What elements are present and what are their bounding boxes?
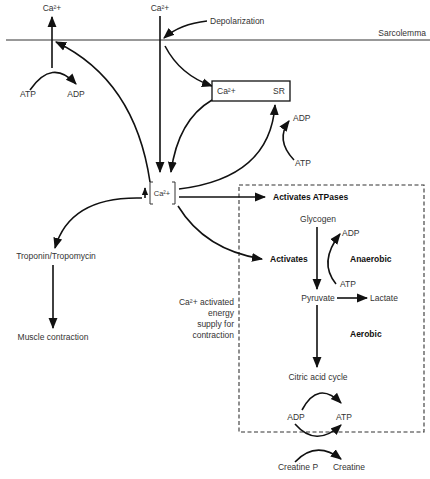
ca-to-troponin-arrow — [55, 198, 142, 248]
ca-to-pump-arrow — [56, 42, 150, 182]
energy-note-line: contraction — [192, 330, 234, 340]
muscle-contraction-label: Muscle contraction — [18, 332, 89, 342]
sr-atp-label: ATP — [295, 158, 311, 168]
cytosolic-ca-label: Ca²+ — [154, 189, 171, 198]
depolarization-label: Depolarization — [210, 16, 265, 26]
ca-out-left-label: Ca²+ — [43, 3, 62, 13]
energy-note: Ca²+ activated energy supply for contrac… — [179, 297, 235, 340]
sarcolemma-label: Sarcolemma — [378, 28, 426, 38]
adp-to-atp-lower-arrow — [295, 424, 341, 436]
anaerobic-atp-adp-arrow — [328, 234, 340, 284]
troponin-label: Troponin/Tropomycin — [16, 251, 96, 261]
energy-note-line: supply for — [197, 319, 234, 329]
activates-atpases-label: Activates ATPases — [273, 192, 348, 202]
aerobic-label: Aerobic — [350, 329, 382, 339]
creatine-label: Creatine — [333, 462, 365, 472]
atp-pump-label: ATP — [20, 89, 36, 99]
atp-to-adp-arrow — [30, 72, 76, 90]
ca-out-center-label: Ca²+ — [151, 3, 170, 13]
calcium-energy-diagram: Sarcolemma Ca²+ ATP ADP Ca²+ Depolarizat… — [0, 0, 430, 479]
lactate-label: Lactate — [370, 293, 398, 303]
energy-note-line: energy — [208, 308, 235, 318]
sr-uptake-arrow — [179, 105, 275, 189]
right-bracket — [172, 182, 175, 204]
energy-note-line: Ca²+ activated — [179, 297, 234, 307]
sr-adp-label: ADP — [293, 113, 311, 123]
sr-ca-label: Ca²+ — [217, 86, 236, 96]
sr-release-arrow — [171, 100, 212, 172]
left-bracket — [150, 182, 153, 204]
activates-arrow — [178, 206, 262, 259]
anaerobic-atp-label: ATP — [340, 279, 356, 289]
cycle-adp-label: ADP — [287, 412, 305, 422]
adp-to-atp-arrow — [302, 393, 341, 410]
anaerobic-adp-label: ADP — [342, 228, 360, 238]
trigger-sr-release-arrow — [165, 46, 212, 86]
depolarization-arrow — [164, 21, 207, 38]
cycle-atp-label: ATP — [336, 412, 352, 422]
anaerobic-label: Anaerobic — [350, 254, 392, 264]
pyruvate-label: Pyruvate — [301, 293, 335, 303]
sr-atp-to-adp-arrow — [283, 121, 294, 160]
adp-pump-label: ADP — [67, 89, 85, 99]
citric-acid-cycle-label: Citric acid cycle — [288, 372, 347, 382]
cytosolic-ca-concentration: Ca²+ — [145, 182, 175, 204]
sr-label: SR — [273, 86, 285, 96]
activates-label: Activates — [270, 254, 308, 264]
creatine-p-to-creatine-arrow — [295, 450, 341, 462]
creatine-p-label: Creatine P — [278, 462, 318, 472]
glycogen-label: Glycogen — [300, 214, 336, 224]
